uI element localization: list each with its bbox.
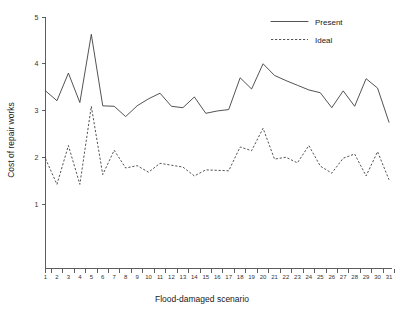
x-tick-label: 5: [90, 274, 94, 280]
x-tick-label: 12: [168, 274, 175, 280]
x-tick-label: 4: [78, 274, 82, 280]
x-tick-label: 7: [113, 274, 117, 280]
series-line-ideal: [46, 106, 390, 184]
x-tick-label: 31: [386, 274, 393, 280]
x-tick-label: 18: [237, 274, 244, 280]
x-axis-ticks: 1234567891011121314151617181920212223242…: [44, 269, 395, 280]
y-tick-label: 4: [35, 60, 39, 67]
x-tick-label: 17: [225, 274, 232, 280]
x-tick-label: 23: [294, 274, 301, 280]
x-tick-label: 3: [67, 274, 71, 280]
x-tick-label: 10: [145, 274, 152, 280]
x-tick-label: 28: [351, 274, 358, 280]
y-axis-ticks: 12345: [35, 14, 46, 208]
chart-legend: Present Ideal: [271, 18, 343, 45]
x-axis-title: Flood-damaged scenario: [155, 294, 249, 304]
y-tick-label: 3: [35, 107, 39, 114]
x-tick-label: 27: [340, 274, 347, 280]
x-tick-label: 16: [214, 274, 221, 280]
x-tick-label: 15: [202, 274, 209, 280]
y-tick-label: 2: [35, 154, 39, 161]
series-line-present: [46, 34, 390, 122]
line-chart: 12345 1234567891011121314151617181920212…: [0, 0, 405, 318]
x-tick-label: 24: [306, 274, 313, 280]
x-tick-label: 13: [180, 274, 187, 280]
x-tick-label: 26: [328, 274, 335, 280]
x-tick-label: 11: [157, 274, 164, 280]
x-tick-label: 8: [124, 274, 128, 280]
x-tick-label: 1: [44, 274, 48, 280]
x-tick-label: 14: [191, 274, 198, 280]
x-tick-label: 20: [260, 274, 267, 280]
data-series-group: [46, 34, 390, 184]
legend-label-present: Present: [315, 18, 343, 27]
x-tick-label: 21: [271, 274, 278, 280]
x-tick-label: 6: [101, 274, 105, 280]
y-tick-label: 5: [35, 14, 39, 21]
y-axis-title: Cost of repair works: [6, 102, 16, 178]
x-tick-label: 2: [55, 274, 59, 280]
x-tick-label: 22: [283, 274, 290, 280]
x-tick-label: 25: [317, 274, 324, 280]
chart-figure: 12345 1234567891011121314151617181920212…: [0, 0, 405, 318]
x-tick-label: 19: [248, 274, 255, 280]
x-tick-label: 30: [374, 274, 381, 280]
x-tick-label: 29: [363, 274, 370, 280]
x-tick-label: 9: [135, 274, 139, 280]
axes: 12345 1234567891011121314151617181920212…: [35, 14, 395, 280]
legend-label-ideal: Ideal: [315, 36, 333, 45]
y-tick-label: 1: [35, 201, 39, 208]
